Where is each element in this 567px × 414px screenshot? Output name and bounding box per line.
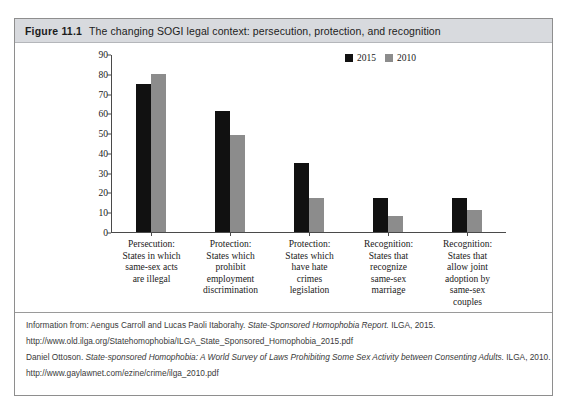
x-tick-mark — [309, 232, 310, 236]
bar-groups — [112, 55, 506, 232]
y-tick-mark — [107, 134, 111, 135]
category-label-1: Protection:States whichprohibitemploymen… — [191, 239, 270, 308]
bar-group — [112, 55, 191, 232]
bar-2010-2 — [309, 198, 324, 232]
x-tick-mark — [230, 232, 231, 236]
x-tick-mark — [467, 232, 468, 236]
bar-2015-3 — [373, 198, 388, 232]
bar-group — [427, 55, 506, 232]
bar-2010-0 — [151, 74, 166, 232]
x-axis-category-labels: Persecution:States in whichsame-sex acts… — [112, 239, 507, 308]
category-label-4: Recognition:States thatallow jointadopti… — [428, 239, 507, 308]
y-tick-mark — [107, 55, 111, 56]
y-tick-mark — [107, 213, 111, 214]
source-note-0: Information from: Aengus Carroll and Luc… — [26, 319, 542, 332]
bar-2010-3 — [388, 216, 403, 232]
category-label-2: Protection:States whichhave hatecrimesle… — [270, 239, 349, 308]
bar-2015-0 — [136, 84, 151, 232]
source-note-1[interactable]: http://www.old.ilga.org/Statehomophobia/… — [26, 335, 542, 348]
y-tick-mark — [107, 193, 111, 194]
y-tick-mark — [107, 94, 111, 95]
bar-2010-4 — [467, 210, 482, 232]
figure-title: The changing SOGI legal context: persecu… — [89, 25, 441, 37]
source-note-2: Daniel Ottoson. State-sponsored Homophob… — [26, 351, 542, 364]
figure-header: Figure 11.1 The changing SOGI legal cont… — [15, 19, 552, 43]
bar-2015-1 — [215, 111, 230, 232]
y-tick-mark — [107, 173, 111, 174]
bar-2015-4 — [452, 198, 467, 232]
bar-group — [191, 55, 270, 232]
figure-number: Figure 11.1 — [25, 25, 82, 37]
x-tick-mark — [388, 232, 389, 236]
y-tick-mark — [107, 74, 111, 75]
footer-divider — [15, 312, 552, 313]
bar-group — [270, 55, 349, 232]
source-note-3[interactable]: http://www.gaylawnet.com/ezine/crime/ilg… — [26, 367, 542, 380]
x-tick-mark — [151, 232, 152, 236]
plot-region: 0102030405060708090 — [111, 55, 506, 233]
figure-container: Figure 11.1 The changing SOGI legal cont… — [14, 18, 553, 396]
bar-2010-1 — [230, 135, 245, 232]
category-label-0: Persecution:States in whichsame-sex acts… — [112, 239, 191, 308]
source-notes: Information from: Aengus Carroll and Luc… — [26, 319, 542, 383]
bar-group — [348, 55, 427, 232]
chart-area: 20152010 0102030405060708090 Persecution… — [15, 43, 552, 336]
y-tick-mark — [107, 153, 111, 154]
category-label-3: Recognition:States thatrecognizesame-sex… — [349, 239, 428, 308]
y-tick-mark — [107, 233, 111, 234]
y-tick-mark — [107, 114, 111, 115]
bar-2015-2 — [294, 163, 309, 232]
